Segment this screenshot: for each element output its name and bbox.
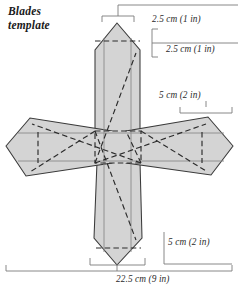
dimension-label-total-width: 22.5 cm (9 in) (116, 274, 170, 284)
right-blade (126, 117, 233, 175)
dimension-label-top-height: 2.5 cm (1 in) (166, 44, 215, 54)
bottom-blade (94, 162, 142, 265)
top-width-bracket (102, 16, 134, 22)
blade-shapes (6, 23, 233, 265)
blades-template-figure: Blades template (0, 0, 243, 293)
top-blade (95, 23, 140, 132)
arm-width-bracket (180, 107, 232, 113)
dimension-label-top-width: 2.5 cm (1 in) (152, 14, 201, 24)
dimension-label-arm-width: 5 cm (2 in) (159, 90, 201, 100)
total-width-bracket (6, 265, 232, 271)
dimension-label-blade-length: 5 cm (2 in) (168, 237, 210, 247)
